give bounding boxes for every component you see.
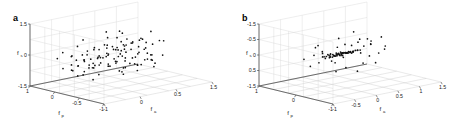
svg-text:p: p <box>62 113 65 118</box>
floor-gridline <box>345 68 419 86</box>
floor-gridline <box>52 82 126 100</box>
panel-letter: b <box>242 14 248 23</box>
floor-gridline <box>116 68 190 86</box>
vertical-tick-label: 0 <box>24 52 27 58</box>
data-point <box>345 67 347 69</box>
data-point <box>105 31 107 33</box>
data-point <box>107 37 109 39</box>
data-point <box>356 49 358 51</box>
data-point <box>124 60 126 62</box>
data-point <box>159 40 161 42</box>
data-point <box>92 62 94 64</box>
data-point <box>109 65 111 67</box>
data-point <box>352 51 354 53</box>
data-point <box>115 62 117 64</box>
depth-tick-label: 1 <box>26 88 29 94</box>
data-point <box>125 44 127 46</box>
data-point <box>124 48 126 50</box>
data-point <box>124 67 126 69</box>
data-point <box>335 71 337 73</box>
data-point <box>120 50 122 52</box>
data-point <box>104 44 106 46</box>
data-point-cloud <box>56 30 164 80</box>
floor-gridline <box>318 78 426 100</box>
data-point <box>337 53 339 55</box>
data-point <box>134 63 136 65</box>
data-point <box>76 59 78 61</box>
svg-text:p: p <box>291 113 294 118</box>
svg-text:f: f <box>380 106 382 112</box>
data-point <box>122 32 124 34</box>
data-point <box>130 48 132 50</box>
data-point <box>120 41 122 43</box>
data-point <box>140 37 142 39</box>
data-point <box>342 55 344 57</box>
depth-tick-label: 0 <box>292 97 295 103</box>
data-point <box>143 48 145 50</box>
vertical-tick-label: -1.5 <box>247 21 256 27</box>
data-point <box>77 75 79 77</box>
data-point <box>62 52 64 54</box>
data-point <box>150 54 152 56</box>
data-point <box>113 49 115 51</box>
data-point <box>378 52 380 54</box>
data-point <box>132 57 134 59</box>
horizontal-tick-label: 0 <box>140 99 143 105</box>
data-point <box>83 71 85 73</box>
data-point <box>92 67 94 69</box>
depth-tick-label: -0.5 <box>72 100 81 106</box>
data-point <box>381 36 383 38</box>
scatter3d-plot: 1.50-1.5fs10-0.5-1fp-100.51.5fa <box>0 0 229 126</box>
data-point <box>332 56 334 58</box>
horizontal-tick-label: -1 <box>103 106 108 112</box>
data-point <box>94 65 96 67</box>
data-point <box>340 55 342 57</box>
data-point <box>125 51 127 53</box>
vertical-axis-title: fs <box>246 50 252 58</box>
data-point <box>146 52 148 54</box>
data-point <box>351 52 353 54</box>
data-point <box>360 52 362 54</box>
data-point <box>384 48 386 50</box>
data-point <box>82 54 84 56</box>
data-point <box>317 45 319 47</box>
data-point <box>370 40 372 42</box>
data-point <box>62 68 64 70</box>
data-point <box>333 54 335 56</box>
data-point <box>325 58 327 60</box>
vertical-tick-label: 0.5 <box>249 67 256 73</box>
data-point <box>106 52 108 54</box>
data-point <box>123 67 125 69</box>
data-point <box>113 58 115 60</box>
data-point <box>140 64 142 66</box>
svg-text:f: f <box>151 106 153 112</box>
data-point <box>138 51 140 53</box>
depth-tick-label: 0 <box>51 94 54 100</box>
data-point <box>344 44 346 46</box>
floor-gridline <box>289 71 397 93</box>
data-point <box>309 66 311 68</box>
svg-text:f: f <box>246 50 248 56</box>
data-point <box>349 51 351 53</box>
depth-axis-title: fp <box>58 110 64 118</box>
floor-gridline <box>73 77 147 95</box>
data-point <box>98 64 100 66</box>
data-point <box>338 53 340 55</box>
depth-axis-title: fp <box>287 110 293 118</box>
data-point <box>331 60 333 62</box>
data-point <box>150 59 152 61</box>
floor-gridline <box>138 64 212 82</box>
data-point <box>147 58 149 60</box>
vertical-tick-label: 0 <box>253 52 256 58</box>
floor-gridline <box>274 68 382 90</box>
data-point <box>106 47 108 49</box>
data-point <box>88 67 90 69</box>
data-point <box>71 64 73 66</box>
data-point <box>315 47 317 49</box>
data-point <box>82 74 84 76</box>
data-point <box>135 56 137 58</box>
data-point <box>162 54 164 56</box>
svg-text:a: a <box>383 109 386 114</box>
data-point <box>82 39 84 41</box>
data-point <box>98 74 100 76</box>
